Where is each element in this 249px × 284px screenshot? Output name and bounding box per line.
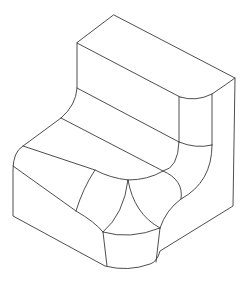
isometric-solid-drawing bbox=[0, 0, 249, 284]
middle-step-edge bbox=[61, 118, 163, 171]
top-right-fillet-edge bbox=[180, 78, 235, 99]
cusp-base-arc bbox=[103, 228, 160, 235]
right-corner-arc bbox=[160, 145, 212, 228]
left-diagonal-edge bbox=[13, 166, 103, 232]
outline-edge bbox=[13, 15, 235, 269]
lower-step-edge bbox=[23, 146, 128, 180]
cusp-right-arc bbox=[128, 180, 160, 228]
top-face-front-edge bbox=[77, 43, 180, 97]
left-curved-divider bbox=[76, 170, 95, 211]
front-left-vertical bbox=[103, 232, 107, 266]
right-lower-arc bbox=[163, 171, 181, 199]
cad-drawing-canvas: Isometric wireframe line drawing of a fi… bbox=[0, 0, 249, 284]
inner-concave-arc bbox=[128, 142, 179, 180]
cusp-left-arc bbox=[103, 180, 128, 232]
right-fillet-bottom-arc bbox=[179, 142, 212, 146]
